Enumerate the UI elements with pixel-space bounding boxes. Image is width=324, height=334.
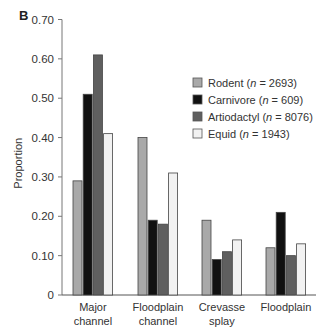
x-category-label: Floodplain	[261, 301, 312, 313]
x-category-label: channel	[74, 315, 113, 327]
bar-carnivore	[148, 220, 157, 295]
bar-artiodactyl	[286, 256, 295, 295]
y-tick-label: 0.70	[32, 14, 54, 26]
legend-label-rodent: Rodent (n = 2693)	[208, 77, 297, 89]
grouped-bar-chart: B 00.100.200.300.400.500.600.70Proportio…	[0, 0, 324, 334]
y-tick-label: 0.30	[32, 171, 54, 183]
y-axis-label: Proportion	[12, 138, 24, 189]
y-tick-label: 0.50	[32, 92, 54, 104]
bar-equid	[297, 244, 306, 295]
bar-equid	[233, 240, 242, 295]
bar-carnivore	[276, 212, 285, 295]
bar-carnivore	[83, 94, 92, 295]
bar-rodent	[202, 220, 211, 295]
plot-area: 00.100.200.300.400.500.600.70ProportionM…	[0, 0, 324, 334]
bar-rodent	[73, 181, 82, 295]
legend-swatch-artiodactyl	[193, 112, 202, 121]
bar-carnivore	[212, 260, 221, 295]
bar-artiodactyl	[93, 55, 102, 295]
y-tick-label: 0.60	[32, 53, 54, 65]
y-tick-label: 0	[48, 289, 54, 301]
legend-swatch-equid	[193, 129, 202, 138]
legend-label-equid: Equid (n = 1943)	[208, 128, 290, 140]
x-category-label: Major	[79, 301, 107, 313]
x-category-label: channel	[139, 315, 178, 327]
y-tick-label: 0.20	[32, 210, 54, 222]
x-category-label: Crevasse	[199, 301, 245, 313]
bar-equid	[104, 134, 113, 295]
bar-artiodactyl	[222, 252, 231, 295]
y-tick-label: 0.10	[32, 250, 54, 262]
legend-swatch-rodent	[193, 78, 202, 87]
panel-label: B	[19, 8, 28, 23]
x-category-label: splay	[209, 315, 235, 327]
y-tick-label: 0.40	[32, 132, 54, 144]
legend-label-artiodactyl: Artiodactyl (n = 8076)	[208, 111, 313, 123]
x-category-label: Floodplain	[133, 301, 184, 313]
bar-rodent	[138, 138, 147, 295]
legend-label-carnivore: Carnivore (n = 609)	[208, 94, 303, 106]
legend-swatch-carnivore	[193, 95, 202, 104]
bar-rodent	[266, 248, 275, 295]
bar-artiodactyl	[158, 224, 167, 295]
bar-equid	[169, 173, 178, 295]
